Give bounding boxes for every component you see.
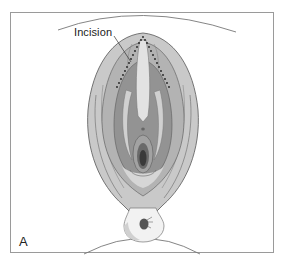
vaginal-opening (140, 150, 147, 166)
clitoral-hood (136, 40, 149, 122)
incision-label: Incision (74, 26, 112, 38)
urethral-opening (141, 128, 145, 131)
anatomical-figure: Incision A (0, 0, 283, 261)
panel-letter: A (19, 234, 28, 249)
anatomy-illustration (0, 0, 283, 261)
